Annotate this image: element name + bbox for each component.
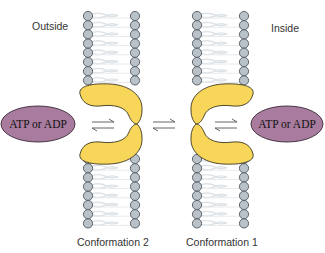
protein-conformation-1 xyxy=(191,84,253,164)
equilibrium-arrow-left-icon xyxy=(92,119,114,131)
membrane-right-bottom xyxy=(192,154,248,228)
equilibrium-arrow-right-icon xyxy=(215,119,237,131)
protein-conformation-2 xyxy=(80,84,142,164)
ligand-left-label: ATP or ADP xyxy=(9,118,67,130)
inside-label: Inside xyxy=(271,22,299,34)
atp-adp-translocator-diagram: ATP or ADP ATP or ADP Outside Inside Con… xyxy=(0,0,325,253)
ligand-left: ATP or ADP xyxy=(1,106,75,142)
outside-label: Outside xyxy=(32,20,68,32)
ligand-right: ATP or ADP xyxy=(251,106,323,142)
membrane-left-top xyxy=(83,11,139,85)
membrane-left-bottom xyxy=(83,154,139,228)
ligand-right-label: ATP or ADP xyxy=(258,118,316,130)
conformation-2-label: Conformation 2 xyxy=(77,236,149,248)
equilibrium-arrow-center-icon xyxy=(153,119,175,131)
membrane-right-top xyxy=(192,11,248,85)
conformation-1-label: Conformation 1 xyxy=(186,236,258,248)
